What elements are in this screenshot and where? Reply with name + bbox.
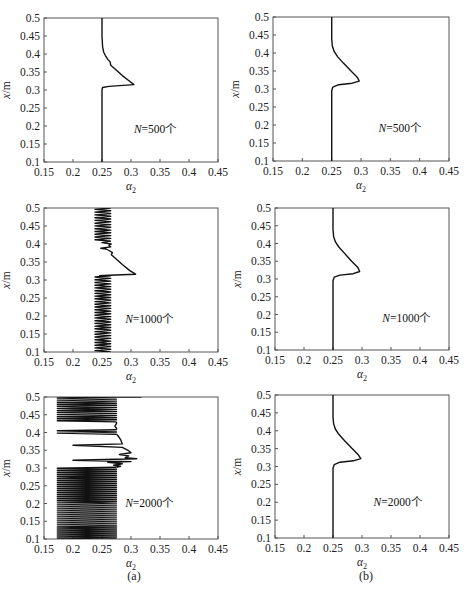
y-tick-label: 0.1	[257, 344, 272, 356]
x-tick-label: 0.25	[323, 542, 343, 554]
chart-panels: 0.150.20.250.30.350.40.450.10.150.20.250…	[0, 11, 459, 572]
y-tick-label: 0.2	[255, 119, 270, 131]
data-series	[102, 18, 134, 162]
x-tick-label: 0.3	[355, 542, 370, 554]
plot-frame	[44, 18, 218, 162]
x-tick-label: 0.35	[380, 165, 400, 177]
y-axis-label: x/m	[231, 270, 243, 288]
y-tick-label: 0.45	[249, 29, 269, 41]
y-tick-label: 0.35	[249, 65, 269, 77]
data-series	[333, 395, 361, 538]
x-axis-label: α2	[126, 370, 136, 385]
x-axis-label: α2	[356, 179, 366, 194]
y-tick-label: 0.15	[249, 137, 269, 149]
x-tick-label: 0.2	[295, 165, 310, 177]
chart-panel-b1: 0.150.20.250.30.350.40.450.10.150.20.250…	[229, 11, 459, 194]
y-tick-label: 0.2	[257, 496, 272, 508]
x-axis-label: α2	[357, 368, 367, 383]
x-tick-label: 0.4	[413, 354, 428, 366]
x-tick-label: 0.35	[150, 356, 170, 368]
y-tick-label: 0.5	[26, 391, 41, 403]
y-tick-label: 0.3	[255, 83, 270, 95]
y-axis-label: x/m	[0, 81, 12, 99]
y-tick-label: 0.25	[20, 480, 40, 492]
annotation-n: N=2000个	[373, 496, 423, 508]
y-tick-label: 0.5	[26, 202, 41, 214]
x-tick-label: 0.4	[182, 166, 197, 178]
y-tick-label: 0.1	[257, 532, 272, 544]
y-tick-label: 0.3	[257, 273, 272, 285]
plot-frame	[273, 17, 449, 161]
x-tick-label: 0.4	[182, 356, 197, 368]
y-tick-label: 0.45	[20, 220, 40, 232]
y-tick-label: 0.15	[251, 514, 271, 526]
x-tick-label: 0.35	[150, 543, 170, 555]
chart-panel-a1: 0.150.20.250.30.350.40.450.10.150.20.250…	[0, 12, 228, 195]
y-tick-label: 0.4	[255, 47, 270, 59]
annotation-n: N=500个	[133, 123, 177, 135]
x-tick-label: 0.45	[208, 166, 228, 178]
x-tick-label: 0.35	[381, 354, 401, 366]
x-axis-label: α2	[126, 180, 136, 195]
x-tick-label: 0.25	[92, 166, 112, 178]
y-tick-label: 0.1	[26, 156, 41, 168]
y-tick-label: 0.4	[257, 238, 272, 250]
y-tick-label: 0.35	[251, 443, 271, 455]
y-tick-label: 0.2	[26, 498, 41, 510]
x-tick-label: 0.45	[439, 165, 459, 177]
caption-a: (a)	[127, 569, 140, 583]
x-tick-label: 0.25	[323, 354, 343, 366]
x-tick-label: 0.45	[439, 542, 459, 554]
x-tick-label: 0.3	[124, 356, 139, 368]
y-tick-label: 0.1	[255, 155, 270, 167]
figure-canvas: 0.150.20.250.30.350.40.450.10.150.20.250…	[0, 0, 465, 592]
y-tick-label: 0.25	[20, 102, 40, 114]
y-tick-label: 0.3	[26, 84, 41, 96]
x-tick-label: 0.2	[66, 356, 81, 368]
y-tick-label: 0.45	[20, 30, 40, 42]
y-tick-label: 0.4	[26, 427, 41, 439]
y-tick-label: 0.25	[249, 101, 269, 113]
chart-panel-b3: 0.150.20.250.30.350.40.450.10.150.20.250…	[231, 389, 459, 571]
y-tick-label: 0.5	[26, 12, 41, 24]
annotation-n: N=500个	[378, 122, 422, 134]
x-tick-label: 0.2	[66, 166, 81, 178]
x-tick-label: 0.45	[208, 356, 228, 368]
x-tick-label: 0.3	[354, 165, 369, 177]
data-series	[95, 208, 136, 352]
data-series	[333, 208, 360, 350]
x-tick-label: 0.25	[322, 165, 342, 177]
y-tick-label: 0.2	[26, 310, 41, 322]
y-tick-label: 0.1	[26, 533, 41, 545]
y-tick-label: 0.15	[20, 328, 40, 340]
y-axis-label: x/m	[0, 459, 12, 477]
y-tick-label: 0.35	[251, 255, 271, 267]
annotation-n: N=1000个	[381, 312, 431, 324]
y-tick-label: 0.2	[26, 120, 41, 132]
x-tick-label: 0.4	[182, 543, 197, 555]
y-tick-label: 0.25	[20, 292, 40, 304]
y-tick-label: 0.4	[26, 48, 41, 60]
y-axis-label: x/m	[229, 80, 241, 98]
y-tick-label: 0.35	[20, 256, 40, 268]
y-tick-label: 0.45	[20, 409, 40, 421]
x-tick-label: 0.45	[439, 354, 459, 366]
plot-frame	[44, 208, 218, 352]
x-tick-label: 0.35	[381, 542, 401, 554]
y-tick-label: 0.3	[26, 462, 41, 474]
y-tick-label: 0.5	[257, 389, 272, 401]
y-tick-label: 0.45	[251, 220, 271, 232]
y-tick-label: 0.2	[257, 309, 272, 321]
caption-b: (b)	[359, 569, 373, 583]
y-tick-label: 0.5	[255, 11, 270, 23]
y-tick-label: 0.25	[251, 478, 271, 490]
y-axis-label: x/m	[231, 458, 243, 476]
plot-frame	[275, 395, 449, 538]
x-tick-label: 0.3	[124, 543, 139, 555]
x-tick-label: 0.45	[208, 543, 228, 555]
chart-panel-a2: 0.150.20.250.30.350.40.450.10.150.20.250…	[0, 202, 228, 385]
y-tick-label: 0.25	[251, 291, 271, 303]
y-tick-label: 0.3	[26, 274, 41, 286]
y-tick-label: 0.45	[251, 407, 271, 419]
chart-panel-a3: 0.150.20.250.30.350.40.450.10.150.20.250…	[0, 391, 228, 572]
